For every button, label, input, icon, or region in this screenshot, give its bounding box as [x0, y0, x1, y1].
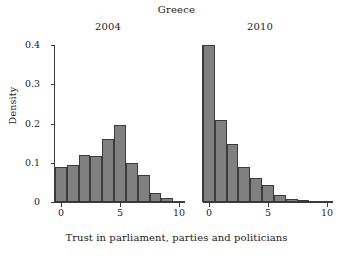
histogram-bar	[79, 155, 91, 202]
x-tick-label: 0	[51, 207, 71, 218]
chart-figure: Greece 2004 2010 Density Trust in parlia…	[0, 0, 353, 258]
histogram-bar	[114, 125, 126, 202]
y-tick-mark	[51, 45, 55, 46]
y-tick-mark	[51, 124, 55, 125]
y-tick-mark	[51, 84, 55, 85]
panel-2010-plot: 0510	[203, 0, 333, 258]
histogram-bar	[55, 167, 67, 202]
y-tick-mark	[51, 202, 55, 203]
histogram-bar	[262, 185, 274, 202]
x-tick-label: 10	[169, 207, 189, 218]
x-tick-label: 0	[199, 207, 219, 218]
histogram-bar	[203, 45, 215, 202]
histogram-bar	[90, 156, 102, 202]
histogram-bar	[274, 195, 286, 202]
x-tick-label: 10	[317, 207, 337, 218]
histogram-bar	[102, 139, 114, 202]
y-tick-label: 0.3	[14, 79, 40, 89]
x-tick-label: 5	[110, 207, 130, 218]
panel-2004-plot: 0510	[55, 0, 185, 258]
histogram-bar	[138, 175, 150, 202]
y-axis-tick-labels: 00.10.20.30.4	[14, 0, 40, 258]
panel-divider-line	[202, 45, 203, 202]
y-tick-label: 0	[14, 197, 40, 207]
y-tick-mark	[51, 163, 55, 164]
histogram-bar	[215, 120, 227, 202]
histogram-bar	[67, 165, 79, 202]
histogram-bar	[150, 193, 162, 202]
histogram-bar	[227, 144, 239, 202]
y-tick-label: 0.2	[14, 119, 40, 129]
y-tick-label: 0.1	[14, 158, 40, 168]
histogram-bar	[238, 167, 250, 202]
histogram-bar	[250, 178, 262, 202]
x-tick-label: 5	[258, 207, 278, 218]
histogram-bar	[126, 163, 138, 202]
y-tick-label: 0.4	[14, 40, 40, 50]
